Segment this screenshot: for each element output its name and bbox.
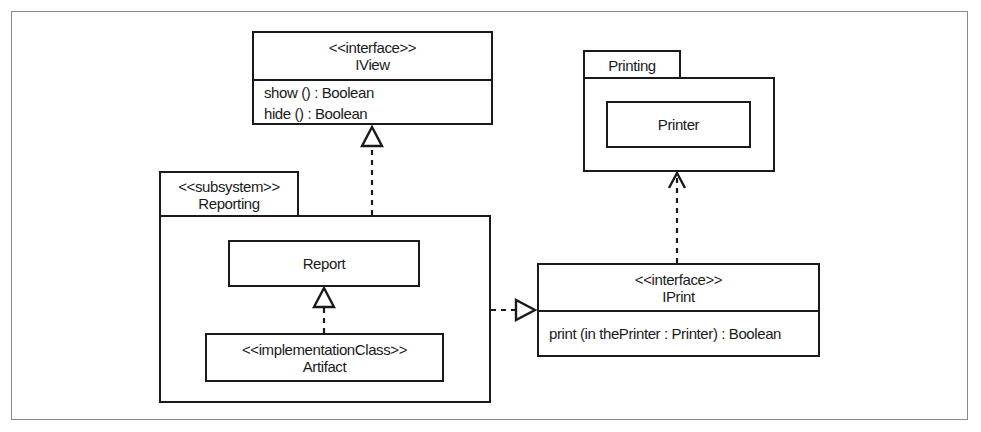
artifact-name: Artifact — [303, 358, 346, 375]
printing-package-tab[interactable]: Printing — [583, 50, 681, 79]
iprint-name: IPrint — [662, 288, 695, 305]
iprint-stereotype: <<interface>> — [635, 271, 722, 288]
iview-operation-show: show () : Boolean — [264, 82, 491, 103]
report-class-name: Report — [303, 255, 346, 272]
iprint-interface[interactable]: <<interface>> IPrint print (in thePrinte… — [537, 263, 820, 357]
report-class[interactable]: Report — [228, 240, 420, 287]
reporting-package-name: Reporting — [198, 195, 259, 212]
iview-operation-hide: hide () : Boolean — [264, 103, 491, 124]
iprint-operation-print: print (in thePrinter : Printer) : Boolea… — [549, 323, 781, 344]
artifact-stereotype: <<implementationClass>> — [242, 341, 407, 358]
artifact-class[interactable]: <<implementationClass>> Artifact — [205, 333, 444, 382]
iview-interface[interactable]: <<interface>> IView show () : Boolean hi… — [252, 31, 493, 125]
printer-class-name: Printer — [658, 116, 699, 133]
iprint-header: <<interface>> IPrint — [539, 265, 818, 312]
iview-operations: show () : Boolean hide () : Boolean — [254, 81, 491, 123]
printing-package-name: Printing — [608, 57, 656, 74]
printer-class[interactable]: Printer — [606, 101, 751, 148]
reporting-package-tab[interactable]: <<subsystem>> Reporting — [159, 171, 299, 217]
iprint-operations: print (in thePrinter : Printer) : Boolea… — [539, 312, 818, 355]
iview-header: <<interface>> IView — [254, 33, 491, 81]
iview-name: IView — [355, 56, 389, 73]
iview-stereotype: <<interface>> — [329, 39, 416, 56]
reporting-package-stereotype: <<subsystem>> — [178, 178, 280, 195]
